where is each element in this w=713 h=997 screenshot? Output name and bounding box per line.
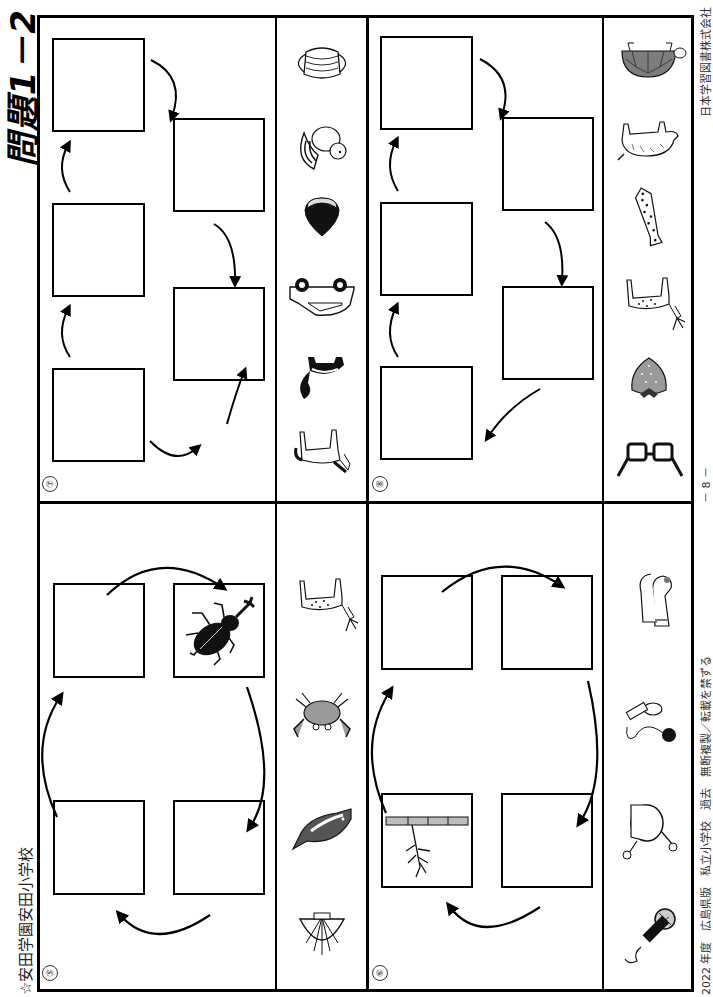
choice-deer[interactable]	[607, 257, 691, 342]
necktie-icon	[617, 185, 681, 249]
choice-boar[interactable]	[607, 102, 691, 182]
choice-glasses[interactable]	[607, 417, 691, 492]
turtle-icon	[617, 25, 681, 95]
publisher-name: 日本学習図書株式会社	[697, 7, 713, 117]
boar-icon	[617, 107, 681, 177]
choice-necktie[interactable]	[607, 182, 691, 252]
strawberry-icon	[624, 355, 674, 405]
page-number: － 8 －	[697, 467, 713, 503]
glasses-icon	[617, 420, 681, 490]
copyright-notice: 2022 年度 広島県版 私立小学校 過去 無断複製／転載を禁ずる	[697, 656, 713, 996]
worksheet-page: ☆安田学園安田小学校 問題1－2 ⑤	[0, 0, 713, 997]
deer-icon	[614, 260, 684, 340]
choice-turtle[interactable]	[607, 22, 691, 97]
choice-strawberry[interactable]	[607, 347, 691, 412]
